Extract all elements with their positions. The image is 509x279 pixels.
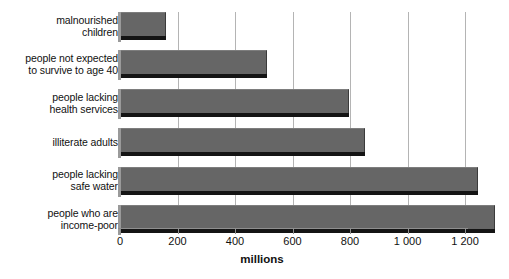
gridline-1000 bbox=[408, 12, 409, 229]
x-tick-label-1200: 1 200 bbox=[451, 235, 479, 247]
bar-lacking-safe-water bbox=[121, 167, 478, 192]
x-tick-600 bbox=[293, 229, 294, 234]
bar-income-poor bbox=[121, 205, 495, 230]
x-tick-800 bbox=[350, 229, 351, 234]
x-tick-label-400: 400 bbox=[226, 235, 244, 247]
gridline-400 bbox=[235, 12, 236, 229]
gridline-800 bbox=[350, 12, 351, 229]
bar-chart: malnourished children people not expecte… bbox=[0, 0, 509, 279]
bar-shadow-not-expected-to-survive-40 bbox=[121, 74, 267, 78]
category-label-lacking-safe-water: people lacking safe water bbox=[0, 168, 118, 193]
bar-shadow-illiterate-adults bbox=[121, 152, 365, 156]
bar-shadow-lacking-health-services bbox=[121, 113, 349, 117]
bar-lacking-health-services bbox=[121, 89, 349, 114]
category-label-lacking-health-services: people lacking health services bbox=[0, 91, 118, 116]
gridline-1200 bbox=[465, 12, 466, 229]
x-tick-label-600: 600 bbox=[283, 235, 301, 247]
x-tick-0 bbox=[120, 229, 121, 234]
category-label-not-expected-to-survive-40: people not expected to survive to age 40 bbox=[0, 52, 118, 77]
x-tick-label-1000: 1 000 bbox=[394, 235, 422, 247]
x-tick-label-800: 800 bbox=[341, 235, 359, 247]
plot-area: 0 200 400 600 800 1 000 1 200 millions bbox=[120, 0, 509, 279]
gridline-600 bbox=[293, 12, 294, 229]
bar-shadow-lacking-safe-water bbox=[121, 191, 478, 195]
bar-shadow-malnourished-children bbox=[121, 36, 166, 40]
bar-malnourished-children bbox=[121, 12, 166, 37]
category-label-illiterate-adults: illiterate adults bbox=[0, 136, 118, 148]
x-tick-1000 bbox=[408, 229, 409, 234]
bar-illiterate-adults bbox=[121, 128, 365, 153]
bar-not-expected-to-survive-40 bbox=[121, 50, 267, 75]
gridline-200 bbox=[178, 12, 179, 229]
category-label-income-poor: people who are income-poor bbox=[0, 207, 118, 232]
x-tick-400 bbox=[235, 229, 236, 234]
x-tick-200 bbox=[178, 229, 179, 234]
x-axis-title: millions bbox=[240, 253, 283, 265]
x-tick-label-200: 200 bbox=[168, 235, 186, 247]
category-label-malnourished-children: malnourished children bbox=[0, 14, 118, 39]
x-tick-1200 bbox=[465, 229, 466, 234]
x-tick-label-0: 0 bbox=[117, 235, 123, 247]
